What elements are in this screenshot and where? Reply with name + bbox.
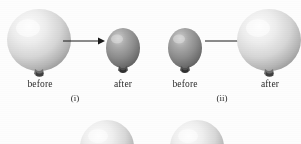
panel-i-caption: (i) bbox=[45, 93, 105, 103]
label-ii-after: after bbox=[236, 79, 301, 89]
balloon-next-row-1 bbox=[79, 118, 137, 144]
right-arrow-icon bbox=[62, 35, 107, 47]
panel-ii-caption: (ii) bbox=[192, 93, 252, 103]
balloon-small-dark-icon bbox=[166, 27, 204, 77]
balloon-large-light-icon bbox=[169, 118, 227, 144]
next-row-partial bbox=[0, 118, 301, 144]
panel-i: before bbox=[0, 0, 150, 110]
balloon-large-light-icon bbox=[236, 8, 301, 78]
balloon-ii-after bbox=[236, 8, 301, 78]
balloon-small-dark-icon bbox=[104, 27, 142, 77]
balloon-large-light-icon bbox=[79, 118, 137, 144]
panel-ii: before bbox=[150, 0, 301, 110]
balloon-ii-before bbox=[166, 27, 204, 77]
label-i-after: after bbox=[104, 79, 142, 89]
balloon-next-row-2 bbox=[169, 118, 227, 144]
label-ii-before: before bbox=[166, 79, 204, 89]
balloon-comparison-figure: before bbox=[0, 0, 301, 144]
balloon-i-after bbox=[104, 27, 142, 77]
label-i-before: before bbox=[6, 79, 74, 89]
